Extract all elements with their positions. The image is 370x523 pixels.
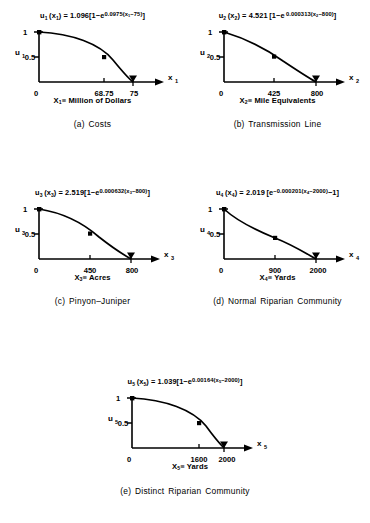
x-ticklabel-0-a: 0 [34, 89, 38, 98]
x-axis-arrow-a [155, 79, 164, 86]
equation-b: u2 (x2) = 4.521 [1−e 0.000313(x2−800)] [185, 8, 370, 20]
marker-b-0 [222, 30, 226, 34]
x-axis-name-e: x [257, 439, 262, 448]
marker-c-0 [37, 207, 41, 211]
x-axis-name-sub-b: 2 [356, 78, 359, 84]
x-ticklabel-2000-d: 2000 [310, 266, 327, 275]
x-axis-name-c: x [164, 250, 169, 259]
x-axis-name-sub-a: 1 [175, 78, 178, 84]
y-ticklabel-05-b: 0.5 [210, 53, 221, 62]
equation-c: u3 (x3) = 2.519[1−e0.000632(x3−800)] [0, 185, 185, 197]
plot-d: u 4 1 0.5 0 900 2000 x 4 [185, 197, 370, 275]
y-axis-label-b: u [200, 48, 205, 57]
x-axis-arrow-c [151, 256, 160, 263]
marker-e-0 [130, 396, 134, 400]
x-ticklabel-425-b: 425 [268, 89, 281, 98]
equation-d: u4 (x4) = 2.019 [e−0.000201(x4−2000)−1] [185, 185, 370, 197]
x-axis-name-sub-d: 4 [356, 255, 360, 261]
x-ticklabel-0-d: 0 [219, 266, 223, 275]
plot-svg-a: u 1 1 0.5 0 68.75 75 x 1 [0, 20, 185, 100]
panel-c: u3 (x3) = 2.519[1−e0.000632(x3−800)] u 3… [0, 185, 185, 306]
marker-a-1 [102, 55, 106, 59]
y-ticklabel-1-b: 1 [208, 28, 213, 37]
plot-svg-e: u 5 1 0.5 0 1600 2000 x 5 [60, 386, 310, 466]
curve-a [39, 32, 133, 82]
x-axis-name-a: x [168, 73, 173, 82]
x-ticklabel-6875-a: 68.75 [94, 89, 114, 98]
marker-c-1 [88, 232, 92, 236]
x-ticklabel-900-d: 900 [269, 266, 282, 275]
plot-svg-c: u 3 1 0.5 0 450 800 x 3 [0, 197, 185, 277]
x-axis-name-sub-c: 3 [171, 255, 174, 261]
plot-e: u 5 1 0.5 0 1600 2000 x 5 [60, 386, 310, 464]
x-ticklabel-2000-e: 2000 [219, 455, 236, 464]
marker-d-1 [273, 236, 277, 240]
caption-d: (d) Normal Riparian Community [185, 296, 370, 306]
marker-b-1 [272, 55, 276, 59]
curve-d [224, 209, 316, 259]
y-ticklabel-1-a: 1 [23, 28, 28, 37]
y-ticklabel-05-c: 0.5 [25, 230, 36, 239]
plot-svg-d: u 4 1 0.5 0 900 2000 x 4 [185, 197, 370, 277]
caption-e: (e) Distinct Riparian Community [60, 486, 310, 496]
y-ticklabel-1-c: 1 [23, 205, 28, 214]
y-axis-label-a: u [15, 48, 20, 57]
x-axis-name-sub-e: 5 [264, 444, 267, 450]
plot-b: u 2 1 0.5 0 425 800 x 2 [185, 20, 370, 98]
panel-b: u2 (x2) = 4.521 [1−e 0.000313(x2−800)] u… [185, 8, 370, 129]
y-ticklabel-05-d: 0.5 [210, 230, 221, 239]
x-ticklabel-800-b: 800 [311, 89, 324, 98]
y-ticklabel-1-d: 1 [208, 205, 213, 214]
plot-a: u 1 1 0.5 0 68.75 75 x 1 [0, 20, 185, 98]
x-ticklabel-1600-e: 1600 [191, 455, 208, 464]
marker-d-0 [222, 207, 226, 211]
caption-a: (a) Costs [0, 119, 185, 129]
y-axis-label-c: u [15, 225, 20, 234]
plot-svg-b: u 2 1 0.5 0 425 800 x 2 [185, 20, 370, 100]
panel-d: u4 (x4) = 2.019 [e−0.000201(x4−2000)−1] … [185, 185, 370, 306]
plot-c: u 3 1 0.5 0 450 800 x 3 [0, 197, 185, 275]
caption-b: (b) Transmission Line [185, 119, 370, 129]
curve-b [224, 32, 316, 82]
x-axis-name-b: x [349, 73, 354, 82]
x-ticklabel-0-b: 0 [219, 89, 223, 98]
equation-e: u5 (x5) = 1.039[1−e0.00164(x5−2000)] [60, 374, 310, 386]
x-axis-arrow-e [244, 445, 253, 452]
y-ticklabel-1-e: 1 [116, 394, 121, 403]
x-axis-arrow-b [336, 79, 345, 86]
y-axis-label-d: u [200, 225, 205, 234]
y-axis-label-e: u [108, 414, 113, 423]
marker-e-1 [197, 421, 201, 425]
y-ticklabel-05-e: 0.5 [118, 419, 129, 428]
panel-a: u1 (x1) = 1.096[1−e0.0975(x1−75)] u 1 [0, 8, 185, 129]
x-ticklabel-0-e: 0 [127, 455, 131, 464]
panel-e: u5 (x5) = 1.039[1−e0.00164(x5−2000)] u 5… [60, 374, 310, 496]
marker-a-0 [37, 30, 41, 34]
x-ticklabel-800-c: 800 [126, 266, 139, 275]
x-ticklabel-0-c: 0 [34, 266, 38, 275]
x-ticklabel-450-c: 450 [84, 266, 97, 275]
x-ticklabel-75-a: 75 [130, 89, 139, 98]
equation-a: u1 (x1) = 1.096[1−e0.0975(x1−75)] [0, 8, 185, 20]
caption-c: (c) Pinyon–Juniper [0, 296, 185, 306]
curve-e [132, 398, 224, 448]
curve-c [39, 209, 131, 259]
x-axis-name-d: x [349, 250, 354, 259]
x-axis-arrow-d [336, 256, 345, 263]
y-ticklabel-05-a: 0.5 [25, 53, 36, 62]
